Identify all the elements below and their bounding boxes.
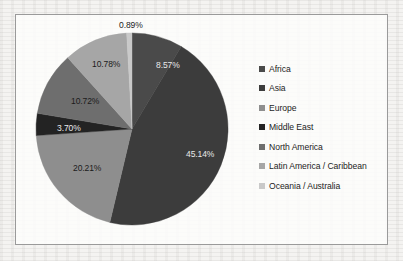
- legend-item[interactable]: Asia: [259, 79, 384, 99]
- legend-item[interactable]: North America: [259, 137, 384, 157]
- legend-item-label: Africa: [269, 64, 291, 74]
- legend-swatch-icon: [259, 183, 265, 189]
- slice-label-latin-america: 10.78%: [92, 59, 120, 69]
- slice-label-oceania: 0.89%: [119, 20, 143, 30]
- chart-legend: AfricaAsiaEuropeMiddle EastNorth America…: [259, 59, 384, 196]
- legend-swatch-icon: [259, 163, 265, 169]
- legend-swatch-icon: [259, 144, 265, 150]
- legend-item-label: Oceania / Australia: [269, 181, 340, 191]
- legend-swatch-icon: [259, 85, 265, 91]
- plot-area: 8.57% 45.14% 20.21% 3.70% 10.72% 10.78% …: [16, 15, 387, 244]
- legend-item-label: Middle East: [269, 122, 313, 132]
- legend-item[interactable]: Oceania / Australia: [259, 176, 384, 196]
- legend-item[interactable]: Africa: [259, 59, 384, 79]
- legend-swatch-icon: [259, 124, 265, 130]
- slice-label-africa: 8.57%: [156, 60, 180, 70]
- legend-item[interactable]: Europe: [259, 98, 384, 118]
- legend-item-label: Latin America / Caribbean: [269, 161, 367, 171]
- chart-frame: 8.57% 45.14% 20.21% 3.70% 10.72% 10.78% …: [15, 14, 388, 245]
- slice-label-asia: 45.14%: [186, 149, 214, 159]
- slice-label-middle-east: 3.70%: [57, 123, 81, 133]
- slice-label-europe: 20.21%: [73, 163, 101, 173]
- legend-swatch-icon: [259, 105, 265, 111]
- legend-item-label: North America: [269, 142, 323, 152]
- legend-swatch-icon: [259, 66, 265, 72]
- legend-item-label: Asia: [269, 83, 286, 93]
- legend-item[interactable]: Middle East: [259, 118, 384, 138]
- slice-label-north-america: 10.72%: [71, 96, 99, 106]
- pie-chart: 8.57% 45.14% 20.21% 3.70% 10.72% 10.78% …: [34, 31, 230, 227]
- legend-item[interactable]: Latin America / Caribbean: [259, 157, 384, 177]
- legend-item-label: Europe: [269, 103, 296, 113]
